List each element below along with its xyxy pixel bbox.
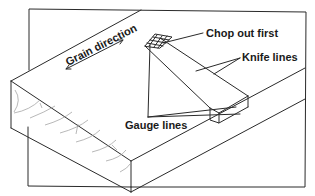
chop-out-area xyxy=(145,34,172,48)
label-grain-direction: Grain direction xyxy=(63,21,138,67)
end-grain-texture xyxy=(14,90,130,172)
label-knife-lines: Knife lines xyxy=(242,51,298,63)
housing-joint-diagram: Grain direction Chop out first Knife lin… xyxy=(0,0,315,196)
diagram-canvas: Grain direction Chop out first Knife lin… xyxy=(0,0,315,196)
label-gauge-lines: Gauge lines xyxy=(125,119,187,131)
housing-groove xyxy=(145,38,248,123)
label-chop-out-first: Chop out first xyxy=(206,27,278,39)
